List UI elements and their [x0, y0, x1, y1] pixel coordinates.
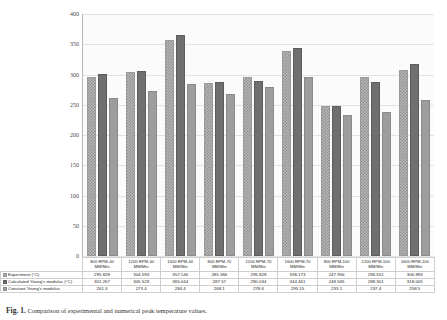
table-cell-value: 288.301 [356, 278, 395, 285]
table-category-row: 800 RPM-40MM/Min1200 RPM-40MM/Min1600 RP… [1, 258, 435, 272]
category-line-2: MM/Min [290, 264, 305, 269]
table-cell-value: 344.461 [278, 278, 317, 285]
bar-group [356, 14, 395, 256]
bar [421, 100, 430, 256]
bar [304, 77, 313, 256]
bar [254, 81, 263, 256]
bar [332, 106, 341, 256]
bar [187, 84, 196, 256]
category-line-2: MM/Min [407, 264, 422, 269]
figure-root: Temperature °C 050100150200250300350400 … [0, 0, 447, 320]
bar [321, 106, 330, 256]
category-line-2: MM/Min [329, 264, 344, 269]
bar [282, 51, 291, 256]
table-cell-value: 237.4 [356, 285, 395, 292]
category-line-1: 1200 RPM-100 [362, 259, 390, 264]
bar [215, 82, 224, 256]
bar [226, 94, 235, 256]
table-cell-value: 258.5 [395, 285, 434, 292]
table-cell-value: 278.6 [239, 285, 278, 292]
table-cell-value: 304.593 [122, 271, 161, 278]
table-cell-value: 338.173 [278, 271, 317, 278]
bar [399, 70, 408, 256]
bar [204, 83, 213, 256]
caption-text: Comparison of experimental and numerical… [26, 307, 207, 314]
table-row: Experiment (°C)295.828304.593357.146285.… [1, 271, 435, 278]
x-axis-category-label: 800 RPM-40MM/Min [83, 258, 122, 272]
y-axis-tick-label: 150 [70, 162, 79, 168]
table-cell-value: 357.146 [161, 271, 200, 278]
legend-swatch-icon [3, 273, 7, 277]
legend-swatch-icon [3, 287, 7, 291]
bar-group [83, 14, 122, 256]
y-axis-tick-label: 250 [70, 102, 79, 108]
category-line-1: 1200 RPM-70 [246, 259, 272, 264]
table-cell-value: 285.366 [200, 271, 239, 278]
x-axis-category-label: 1200 RPM-40MM/Min [122, 258, 161, 272]
legend-swatch-icon [3, 280, 7, 284]
category-line-1: 1600 RPM-70 [285, 259, 311, 264]
x-axis-category-label: 1600 RPM-70MM/Min [278, 258, 317, 272]
y-axis-tick-label: 50 [73, 223, 79, 229]
bar [371, 82, 380, 256]
y-axis-tick-label: 300 [70, 72, 79, 78]
plot-area: 050100150200250300350400 [82, 14, 434, 257]
bar-group [161, 14, 200, 256]
category-line-2: MM/Min [251, 264, 266, 269]
table-cell-value: 295.15 [278, 285, 317, 292]
table-cell-value: 248.565 [317, 278, 356, 285]
category-line-2: MM/Min [95, 264, 110, 269]
category-line-2: MM/Min [173, 264, 188, 269]
bar [343, 115, 352, 256]
table-row: Calculated Young's modulus (°C)301.26730… [1, 278, 435, 285]
y-axis-tick-label: 350 [70, 41, 79, 47]
x-axis-category-label: 800 RPM-70MM/Min [200, 258, 239, 272]
figure-caption: Fig. 1. Comparison of experimental and n… [6, 306, 442, 315]
table-cell-value: 301.267 [83, 278, 122, 285]
bar [98, 74, 107, 256]
data-table-wrapper: 800 RPM-40MM/Min1200 RPM-40MM/Min1600 RP… [0, 257, 434, 293]
bar [382, 112, 391, 256]
legend-series-label: Constant Young's modulus [1, 285, 83, 292]
category-line-1: 800 RPM-70 [208, 259, 232, 264]
category-line-1: 1600 RPM-40 [167, 259, 193, 264]
table-cell-value: 273.4 [122, 285, 161, 292]
table-row: Constant Young's modulus261.3273.4284.42… [1, 285, 435, 292]
bar-group [200, 14, 239, 256]
legend-series-label: Experiment (°C) [1, 271, 83, 278]
table-cell-value: 305.529 [122, 278, 161, 285]
category-line-1: 1200 RPM-40 [128, 259, 154, 264]
table-corner-cell [1, 258, 83, 272]
table-cell-value: 284.4 [161, 285, 200, 292]
table-cell-value: 261.3 [83, 285, 122, 292]
bar-series-layer [83, 14, 434, 256]
x-axis-category-label: 1200 RPM-100MM/Min [356, 258, 395, 272]
bar [126, 72, 135, 256]
table-cell-value: 268.1 [200, 285, 239, 292]
legend-series-name: Calculated Young's modulus (°C) [8, 279, 72, 284]
category-line-1: 800 RPM-100 [324, 259, 350, 264]
bar [360, 77, 369, 256]
bar [137, 71, 146, 256]
category-line-2: MM/Min [368, 264, 383, 269]
legend-series-label: Calculated Young's modulus (°C) [1, 278, 83, 285]
bar [293, 48, 302, 256]
table-cell-value: 306.893 [395, 271, 434, 278]
table-cell-value: 365.044 [161, 278, 200, 285]
chart-data-table: 800 RPM-40MM/Min1200 RPM-40MM/Min1600 RP… [0, 257, 435, 293]
y-axis-tick-label: 400 [70, 11, 79, 17]
legend-series-name: Experiment (°C) [8, 272, 39, 277]
bar [109, 98, 118, 256]
y-axis-tick-label: 100 [70, 193, 79, 199]
table-cell-value: 247.956 [317, 271, 356, 278]
x-axis-category-label: 800 RPM-100MM/Min [317, 258, 356, 272]
x-axis-category-label: 1600 RPM-40MM/Min [161, 258, 200, 272]
category-line-1: 800 RPM-40 [90, 259, 114, 264]
bar [410, 64, 419, 256]
category-line-1: 1600 RPM-100 [401, 259, 429, 264]
bar [87, 77, 96, 256]
bar-group [395, 14, 434, 256]
table-cell-value: 318.005 [395, 278, 434, 285]
table-cell-value: 290.034 [239, 278, 278, 285]
x-axis-category-label: 1600 RPM-100MM/Min [395, 258, 434, 272]
